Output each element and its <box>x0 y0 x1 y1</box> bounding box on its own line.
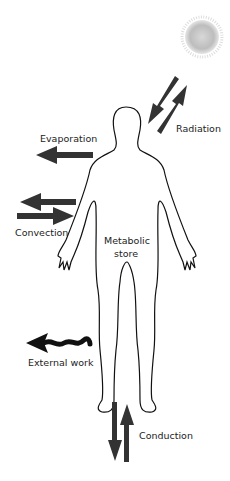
external-work-arrow <box>26 333 90 353</box>
evaporation-arrow <box>36 146 93 164</box>
metabolic-store-label: Metabolic store <box>104 234 148 260</box>
convection-arrow-right <box>17 207 74 225</box>
conduction-arrows <box>108 402 134 462</box>
metabolic-label-line2: store <box>104 247 148 260</box>
metabolic-label-line1: Metabolic <box>104 234 148 247</box>
evaporation-label: Evaporation <box>40 133 97 144</box>
convection-arrow-left <box>20 193 76 211</box>
external-work-label: External work <box>28 357 93 368</box>
convection-label: Convection <box>15 227 68 238</box>
radiation-label: Radiation <box>176 123 221 134</box>
sun-icon <box>182 17 222 57</box>
conduction-label: Conduction <box>139 430 193 441</box>
